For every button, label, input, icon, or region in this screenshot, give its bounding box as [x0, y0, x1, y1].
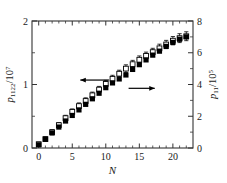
y-right-tick-label: 8 — [197, 16, 202, 27]
x-tick-label: 0 — [36, 151, 41, 162]
x-tick-label: 15 — [134, 151, 144, 162]
x-tick-label: 20 — [168, 151, 178, 162]
x-tick-label: 10 — [101, 151, 111, 162]
data-point-filled-square — [36, 142, 41, 147]
left-arrow-head — [80, 78, 86, 83]
y-right-tick-label: 2 — [197, 111, 202, 122]
data-point-open-square — [124, 66, 129, 71]
data-point-filled-square — [90, 96, 95, 101]
data-point-filled-square — [63, 118, 68, 123]
data-point-filled-square — [56, 124, 61, 129]
chart-svg: 0510152001202468Np1122/107p11/105 — [0, 0, 227, 183]
x-axis-label: N — [108, 164, 117, 176]
right-arrow-head — [149, 86, 155, 91]
data-point-filled-square — [164, 44, 169, 49]
data-point-filled-square — [96, 91, 101, 96]
y-axis-label-right: p11/105 — [207, 70, 220, 100]
data-point-filled-square — [50, 130, 55, 135]
data-point-filled-square — [184, 34, 189, 39]
x-tick-label: 5 — [70, 151, 75, 162]
data-point-filled-square — [143, 57, 148, 62]
y-right-tick-label: 0 — [197, 143, 202, 154]
y-left-tick-label: 2 — [23, 16, 28, 27]
y-left-tick-label: 1 — [23, 79, 28, 90]
data-point-filled-square — [110, 80, 115, 85]
data-point-filled-square — [76, 107, 81, 112]
data-point-filled-square — [130, 67, 135, 72]
y-axis-label-left: p1122/107 — [4, 66, 17, 103]
data-point-filled-square — [150, 53, 155, 58]
data-point-filled-square — [137, 62, 142, 67]
data-point-filled-square — [177, 37, 182, 42]
data-point-open-square — [130, 62, 135, 67]
y-right-tick-label: 6 — [197, 47, 202, 58]
data-point-filled-square — [170, 40, 175, 45]
y-left-tick-label: 0 — [23, 143, 28, 154]
y-right-tick-label: 4 — [197, 79, 202, 90]
data-point-filled-square — [103, 85, 108, 90]
data-point-filled-square — [43, 137, 48, 142]
data-point-filled-square — [123, 72, 128, 77]
data-point-filled-square — [157, 49, 162, 54]
data-point-open-square — [137, 57, 142, 62]
figure-container: 0510152001202468Np1122/107p11/105 — [0, 0, 227, 183]
data-point-filled-square — [117, 76, 122, 81]
data-point-filled-square — [83, 102, 88, 107]
data-point-open-square — [117, 71, 122, 76]
data-point-filled-square — [70, 113, 75, 118]
